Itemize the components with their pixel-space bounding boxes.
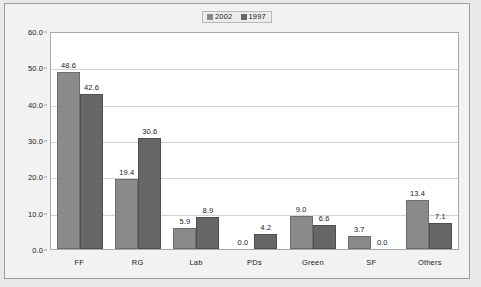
bar-value-label: 42.6	[84, 83, 99, 92]
bar-slot: 0.0	[371, 33, 394, 249]
y-axis-tick-label: 30.0	[28, 137, 43, 146]
y-axis: 60.050.040.030.020.010.00.0	[13, 32, 47, 250]
bar-slot: 0.0	[231, 33, 254, 249]
bar-Green-1997	[313, 225, 336, 249]
legend-swatch-icon	[241, 14, 247, 20]
bar-Others-2002	[406, 200, 429, 249]
y-axis-tick-mark	[44, 141, 47, 142]
bar-value-label: 0.0	[238, 238, 249, 247]
x-axis-label-Others: Others	[401, 252, 459, 267]
bar-value-label: 3.7	[354, 225, 365, 234]
legend-box: 20021997	[202, 11, 272, 23]
bar-value-label: 9.0	[296, 205, 307, 214]
bar-value-label: 0.0	[377, 238, 388, 247]
bar-slot: 6.6	[313, 33, 336, 249]
bar-value-label: 13.4	[410, 189, 425, 198]
bar-SF-2002	[348, 236, 371, 249]
y-axis-tick-label: 10.0	[28, 209, 43, 218]
y-axis-tick-label: 60.0	[28, 28, 43, 37]
bar-value-label: 7.1	[435, 212, 446, 221]
y-axis-tick-mark	[44, 104, 47, 105]
bar-group-PDs: 0.04.2	[225, 33, 283, 249]
bar-slot: 30.6	[138, 33, 161, 249]
bar-RG-2002	[115, 179, 138, 249]
bar-Lab-2002	[173, 228, 196, 249]
bar-slot: 4.2	[254, 33, 277, 249]
bar-slot: 42.6	[80, 33, 103, 249]
y-axis-tick-label: 50.0	[28, 64, 43, 73]
plot-wrapper: 60.050.040.030.020.010.00.0 48.642.619.4…	[13, 32, 461, 268]
bar-group-FF: 48.642.6	[51, 33, 109, 249]
legend-item-2002: 2002	[207, 13, 233, 21]
legend-swatch-icon	[207, 14, 213, 20]
chart-figure: 20021997 60.050.040.030.020.010.00.0 48.…	[4, 3, 470, 279]
bar-Lab-1997	[196, 217, 219, 249]
x-axis-label-SF: SF	[342, 252, 400, 267]
bar-Green-2002	[290, 216, 313, 249]
legend-item-1997: 1997	[241, 13, 267, 21]
bar-value-label: 5.9	[179, 217, 190, 226]
bar-value-label: 30.6	[142, 127, 157, 136]
chart-legend: 20021997	[5, 11, 469, 23]
bar-value-label: 19.4	[119, 168, 134, 177]
bar-group-Lab: 5.98.9	[167, 33, 225, 249]
bar-Others-1997	[429, 223, 452, 249]
bar-slot: 19.4	[115, 33, 138, 249]
bar-value-label: 6.6	[319, 214, 330, 223]
x-axis-label-FF: FF	[50, 252, 108, 267]
bars-layer: 48.642.619.430.65.98.90.04.29.06.63.70.0…	[51, 33, 458, 249]
bar-value-label: 4.2	[261, 223, 272, 232]
bar-group-Others: 13.47.1	[400, 33, 458, 249]
bar-slot: 3.7	[348, 33, 371, 249]
plot-area: 48.642.619.430.65.98.90.04.29.06.63.70.0…	[50, 32, 459, 250]
y-axis-tick-mark	[44, 213, 47, 214]
x-axis-label-Green: Green	[284, 252, 342, 267]
x-axis-label-RG: RG	[108, 252, 166, 267]
bar-RG-1997	[138, 138, 161, 249]
bar-value-label: 48.6	[61, 61, 76, 70]
legend-label: 1997	[249, 13, 267, 21]
x-axis-label-PDs: PDs	[225, 252, 283, 267]
y-axis-tick-mark	[44, 68, 47, 69]
bar-slot: 7.1	[429, 33, 452, 249]
y-axis-tick-label: 40.0	[28, 100, 43, 109]
legend-label: 2002	[215, 13, 233, 21]
bar-value-label: 8.9	[202, 206, 213, 215]
y-axis-tick-label: 20.0	[28, 173, 43, 182]
bar-FF-1997	[80, 94, 103, 249]
y-axis-tick-mark	[44, 250, 47, 251]
y-axis-tick-mark	[44, 32, 47, 33]
bar-slot: 5.9	[173, 33, 196, 249]
x-axis-label-Lab: Lab	[167, 252, 225, 267]
bar-slot: 13.4	[406, 33, 429, 249]
bar-slot: 8.9	[196, 33, 219, 249]
bar-PDs-1997	[254, 234, 277, 249]
bar-FF-2002	[57, 72, 80, 249]
bar-slot: 48.6	[57, 33, 80, 249]
bar-group-RG: 19.430.6	[109, 33, 167, 249]
bar-slot: 9.0	[290, 33, 313, 249]
y-axis-tick-label: 0.0	[32, 246, 43, 255]
y-axis-tick-mark	[44, 177, 47, 178]
bar-group-Green: 9.06.6	[284, 33, 342, 249]
bar-group-SF: 3.70.0	[342, 33, 400, 249]
x-axis: FFRGLabPDsGreenSFOthers	[50, 252, 459, 267]
